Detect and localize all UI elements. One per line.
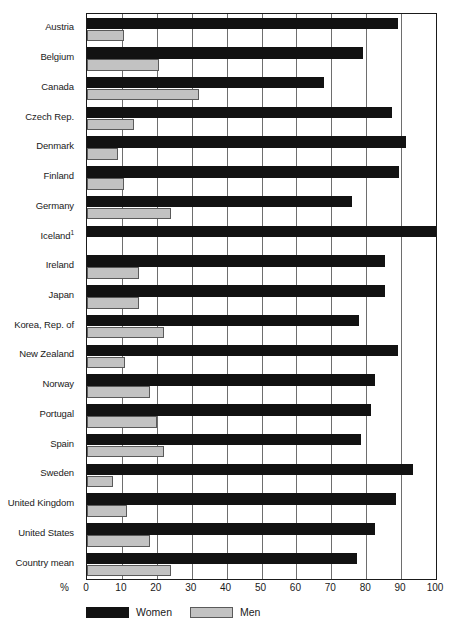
bar-men [87,59,159,71]
bar-row [87,222,436,253]
bar-women [87,493,396,505]
bar-row [87,282,436,313]
x-tick-label: 0 [83,582,89,593]
category-label: United Kingdom [0,497,74,508]
category-label: Iceland1 [0,230,74,241]
bar-women [87,255,385,267]
legend-item-men: Men [190,606,260,618]
bar-men [87,476,113,488]
category-label: Japan [0,289,74,300]
category-label: Korea, Rep. of [0,319,74,330]
bar-women [87,107,392,119]
bar-men [87,178,124,190]
category-label: Country mean [0,557,74,568]
bar-women [87,285,385,297]
x-tick-label: 100 [427,582,444,593]
bar-women [87,464,413,476]
bar-row [87,44,436,75]
bar-women [87,315,359,327]
category-label: Denmark [0,140,74,151]
horizontal-bar-chart: AustriaBelgiumCanadaCzech Rep.DenmarkFin… [0,0,453,640]
footnote-marker: 1 [70,228,74,235]
bar-women [87,226,436,238]
x-tick-label: 20 [150,582,161,593]
category-label: Ireland [0,259,74,270]
bar-row [87,490,436,521]
bar-women [87,47,363,59]
bar-women [87,434,361,446]
bar-row [87,371,436,402]
bar-men [87,357,125,369]
bar-row [87,401,436,432]
bar-men [87,89,199,101]
bar-row [87,73,436,104]
category-label: Finland [0,170,74,181]
x-tick-label: 40 [220,582,231,593]
plot-area [86,13,437,580]
bar-women [87,196,352,208]
x-tick-label: 90 [395,582,406,593]
bar-men [87,208,171,220]
category-label: Austria [0,21,74,32]
legend-label: Men [240,606,260,618]
x-tick-label: 30 [185,582,196,593]
bar-row [87,163,436,194]
category-label: Sweden [0,467,74,478]
bar-row [87,549,436,580]
bar-women [87,77,324,89]
bar-men [87,416,157,428]
category-label: Portugal [0,408,74,419]
category-label: Canada [0,81,74,92]
category-label: Germany [0,200,74,211]
x-tick-label: 60 [290,582,301,593]
category-label: Spain [0,438,74,449]
chart-legend: WomenMen [0,606,453,626]
bar-women [87,345,398,357]
bar-men [87,386,150,398]
bar-women [87,523,375,535]
bar-men [87,505,127,517]
bar-row [87,430,436,461]
category-label: New Zealand [0,348,74,359]
bar-men [87,148,118,160]
category-label: Czech Rep. [0,111,74,122]
bar-row [87,192,436,223]
bar-row [87,520,436,551]
bar-women [87,166,399,178]
x-tick-label: 10 [115,582,126,593]
legend-item-women: Women [86,606,172,618]
bar-men [87,267,139,279]
bar-men [87,565,171,577]
bar-row [87,103,436,134]
bar-women [87,18,398,30]
bar-men [87,327,164,339]
x-tick-label: 70 [325,582,336,593]
bar-men [87,297,139,309]
bar-women [87,136,406,148]
bar-row [87,14,436,45]
bar-men [87,535,150,547]
legend-swatch-men [190,607,233,618]
category-label: United States [0,527,74,538]
x-axis: % 0102030405060708090100 [0,582,453,598]
legend-label: Women [136,606,172,618]
axis-percent-symbol: % [60,582,69,593]
x-tick-label: 50 [255,582,266,593]
category-label-column: AustriaBelgiumCanadaCzech Rep.DenmarkFin… [0,13,80,578]
bar-women [87,374,375,386]
x-tick-label: 80 [360,582,371,593]
bar-men [87,119,134,131]
category-label: Norway [0,378,74,389]
bar-row [87,460,436,491]
bar-row [87,311,436,342]
bar-men [87,30,124,42]
bar-row [87,341,436,372]
category-label: Belgium [0,51,74,62]
bar-women [87,553,357,565]
bar-men [87,446,164,458]
bar-row [87,252,436,283]
bar-row [87,133,436,164]
legend-swatch-women [86,607,129,618]
bar-women [87,404,371,416]
